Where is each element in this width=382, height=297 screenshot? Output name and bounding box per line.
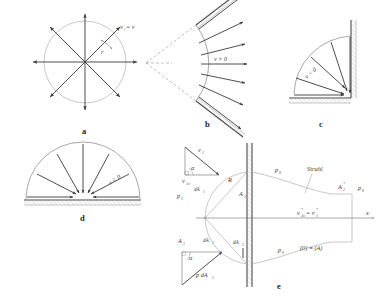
panel-b-wall-lower: [196, 98, 245, 137]
panel-e-alpha-top: α: [191, 164, 195, 171]
panel-e-dA2-symbol: dA: [233, 239, 240, 245]
panel-b-wall-upper: [196, 0, 245, 28]
panel-e-p1-subscript: 1: [181, 197, 183, 201]
panel-a-velocity-equals: = v: [126, 23, 135, 30]
panel-e-v1x-subscript: 1x: [186, 182, 190, 186]
panel-e-A2-star-label: A 2 *: [337, 182, 345, 192]
panel-e-jet-leader: [305, 174, 312, 193]
panel-e-v1-subscript: 1: [202, 151, 204, 155]
panel-b-inlet-arc: [196, 25, 209, 101]
panel-letter-e: e: [277, 281, 281, 291]
panel-e: x v 1 α v 1x p 1 dA 1 R A 2: [176, 143, 374, 291]
panel-letter-d: d: [80, 213, 85, 223]
panel-letter-b: b: [205, 119, 210, 129]
panel-e-v2x-star-equals: = v: [306, 209, 315, 216]
panel-a-radius-label: r: [101, 48, 104, 55]
panel-b-edge-upper: [146, 25, 196, 63]
panel-a-velocity-subscript: i: [124, 28, 125, 32]
panel-e-p1-symbol: p: [176, 192, 180, 199]
panel-e-v1-star-superscript: *: [316, 208, 318, 212]
panel-e-dA1-bottom-subscript: 1: [212, 241, 214, 245]
panel-e-pressure-force-symbol: p dA: [195, 271, 208, 278]
panel-a-velocity-label: v i = v: [120, 23, 135, 32]
panel-d: v < 0 d: [24, 142, 141, 223]
panel-e-pressure-force-subscript: 1: [212, 276, 214, 280]
panel-e-v1-star-subscript: 1: [316, 214, 318, 218]
panel-e-pressure-force-label: p dA 1: [195, 271, 214, 280]
panel-e-x-axis-label: x: [365, 209, 369, 216]
panel-e-dA2-subscript: 2: [242, 243, 244, 247]
panel-e-dA1-top-subscript: 1: [203, 190, 205, 194]
technical-figure: r v i = v a: [0, 0, 382, 297]
panel-e-A2-star-superscript: *: [343, 182, 345, 186]
panel-e-R-label: R: [227, 176, 232, 183]
panel-c-flow-label: v < 0: [303, 65, 318, 80]
panel-e-jet-label: Strahl: [307, 165, 323, 172]
panel-e-v1-symbol: v: [198, 146, 201, 153]
panel-a: r v i = v a: [33, 14, 137, 136]
panel-e-A1-subscript: 1: [183, 242, 185, 246]
panel-e-exit-velocity-label: v 2x * = v 1 *: [297, 208, 318, 218]
panel-e-v2x-star-symbol: v: [297, 209, 300, 216]
panel-e-dA1-top: dA: [194, 186, 201, 192]
panel-e-alpha-bottom: α: [189, 254, 193, 261]
panel-e-jet-upper: [252, 172, 352, 194]
panel-d-flow-arrows: [27, 144, 139, 197]
panel-b: v > 0 b: [146, 0, 247, 137]
panel-e-A2-symbol: A: [238, 190, 243, 197]
panel-e-A1-symbol: A: [177, 237, 182, 244]
panel-e-v2x-star-subscript: 2x: [301, 214, 305, 218]
panel-e-v1x-symbol: v: [182, 177, 185, 184]
panel-e-plate: [247, 143, 252, 287]
panel-e-A2-star-subscript: 2: [343, 188, 345, 192]
panel-e-p0-bottom-symbol: p: [277, 246, 281, 253]
panel-c-wall-vertical: [351, 20, 356, 98]
panel-c-flow-arrows: [294, 37, 350, 95]
panel-e-v2x-star-superscript: *: [301, 208, 303, 212]
panel-e-p0-right-subscript: 0: [362, 189, 364, 193]
panel-e-lower-velocity: [182, 252, 222, 285]
figure-container: r v i = v a: [0, 0, 382, 297]
panel-c: v < 0 c: [289, 20, 356, 129]
panel-e-A2-star-symbol: A: [337, 183, 342, 190]
panel-letter-a: a: [82, 126, 87, 136]
panel-e-reference-note: (0) ≡ (A): [300, 244, 322, 252]
panel-e-p0-right-symbol: p: [357, 184, 361, 191]
panel-e-p0-bottom-subscript: 0: [282, 251, 284, 255]
panel-a-velocity-symbol: v: [120, 23, 123, 30]
panel-e-p0-top-symbol: p: [274, 166, 278, 173]
panel-e-dA1-bottom: dA: [203, 237, 210, 243]
panel-d-flow-label: v < 0: [107, 172, 123, 186]
panel-d-ground: [24, 200, 141, 205]
panel-e-A2-subscript: 2: [244, 195, 246, 199]
panel-b-flow-label: v > 0: [214, 55, 228, 62]
panel-e-p0-top-subscript: 0: [279, 171, 281, 175]
panel-c-wall-horizontal: [289, 98, 351, 103]
panel-letter-c: c: [319, 119, 323, 129]
panel-b-edge-lower: [146, 63, 196, 101]
